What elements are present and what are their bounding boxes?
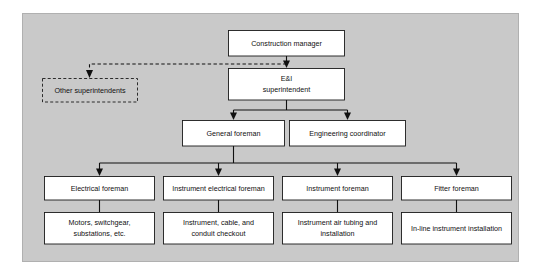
node-label-ei-superintendent-line2: superintendent — [263, 85, 311, 94]
node-label-instrument-air-line1: Instrument air tubing and — [298, 218, 378, 227]
node-label-ei-superintendent-line1: E&I — [281, 74, 293, 83]
node-engineering-coordinator[interactable]: Engineering coordinator — [290, 121, 406, 147]
node-motors-switchgear[interactable]: Motors, switchgear, substations, etc. — [45, 213, 155, 245]
node-label-instrument-air-line2: installation — [321, 229, 355, 238]
node-fitter-foreman[interactable]: Fitter foreman — [402, 177, 512, 201]
node-general-foreman[interactable]: General foreman — [183, 121, 285, 147]
node-label-engineering-coordinator: Engineering coordinator — [309, 129, 386, 138]
node-label-fitter-foreman: Fitter foreman — [434, 184, 479, 193]
node-instrument-air-tubing[interactable]: Instrument air tubing and installation — [283, 213, 393, 245]
org-chart-canvas: Construction manager Other superintenden… — [0, 0, 541, 275]
node-label-instrument-foreman: Instrument foreman — [306, 184, 368, 193]
node-construction-manager[interactable]: Construction manager — [229, 31, 345, 57]
node-label-motors-line2: substations, etc. — [74, 229, 126, 238]
node-electrical-foreman[interactable]: Electrical foreman — [45, 177, 155, 201]
node-label-instrument-cable-line1: Instrument, cable, and — [183, 218, 254, 227]
node-label-instrument-electrical-foreman: Instrument electrical foreman — [172, 184, 265, 193]
node-label-motors-line1: Motors, switchgear, — [69, 218, 131, 227]
org-chart-diagram: Construction manager Other superintenden… — [0, 0, 541, 275]
node-label-other-superintendents: Other superintendents — [54, 86, 126, 95]
node-label-electrical-foreman: Electrical foreman — [71, 184, 129, 193]
node-instrument-cable-conduit[interactable]: Instrument, cable, and conduit checkout — [164, 213, 274, 245]
node-label-construction-manager: Construction manager — [251, 39, 322, 48]
node-label-instrument-cable-line2: conduit checkout — [192, 229, 246, 238]
node-instrument-foreman[interactable]: Instrument foreman — [283, 177, 393, 201]
node-label-in-line-instrument: In-line instrument installation — [411, 224, 502, 233]
node-in-line-instrument[interactable]: In-line instrument installation — [402, 213, 512, 245]
node-label-general-foreman: General foreman — [207, 129, 261, 138]
node-other-superintendents[interactable]: Other superintendents — [43, 79, 138, 103]
node-instrument-electrical-foreman[interactable]: Instrument electrical foreman — [164, 177, 274, 201]
node-ei-superintendent[interactable]: E&I superintendent — [229, 69, 345, 101]
